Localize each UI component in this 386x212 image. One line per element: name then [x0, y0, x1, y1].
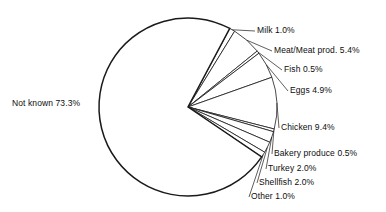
pie-slices-group: [99, 18, 277, 196]
slice-label-not-known: Not known 73.3%: [12, 98, 80, 108]
slice-label-shellfish: Shellfish 2.0%: [259, 177, 314, 187]
slice-label-turkey: Turkey 2.0%: [268, 163, 317, 173]
slice-label-chicken: Chicken 9.4%: [281, 122, 335, 132]
leader-line: [277, 103, 279, 128]
slice-label-milk: Milk 1.0%: [257, 25, 295, 35]
slice-label-meat: Meat/Meat prod. 5.4%: [274, 45, 360, 55]
slice-label-bakery-produce: Bakery produce 0.5%: [274, 148, 357, 158]
pie-chart-figure: Milk 1.0% Meat/Meat prod. 5.4% Fish 0.5%…: [0, 0, 386, 212]
slice-label-fish: Fish 0.5%: [284, 64, 323, 74]
leader-line: [232, 30, 255, 31]
slice-label-other: Other 1.0%: [251, 191, 295, 201]
slice-label-eggs: Eggs 4.9%: [290, 85, 332, 95]
